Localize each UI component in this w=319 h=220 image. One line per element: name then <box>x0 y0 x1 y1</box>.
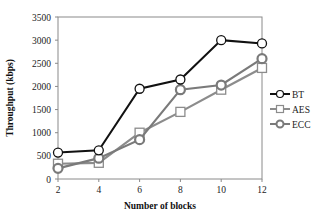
y-tick-label: 1000 <box>32 128 51 138</box>
y-tick-label: 1500 <box>32 105 51 115</box>
y-tick-label: 2500 <box>32 59 51 69</box>
y-tick-label: 2000 <box>32 82 51 92</box>
circle-marker <box>135 135 144 144</box>
y-tick-label: 3500 <box>32 13 51 23</box>
legend-label: AES <box>292 105 310 115</box>
legend-item-bt: BT <box>270 90 304 100</box>
legend: BTAESECC <box>270 90 310 130</box>
circle-marker <box>217 81 226 90</box>
legend-item-ecc: ECC <box>270 120 310 130</box>
y-axis-title: Throughput (kbps) <box>5 59 16 137</box>
series-bt <box>54 36 267 157</box>
circle-marker <box>258 39 267 48</box>
legend-label: ECC <box>292 120 310 130</box>
x-tick-label: 2 <box>56 185 61 195</box>
series-ecc <box>54 54 267 173</box>
circle-marker <box>135 84 144 93</box>
square-marker <box>258 63 267 72</box>
legend-label: BT <box>292 90 304 100</box>
circle-marker <box>94 146 103 155</box>
circle-marker <box>54 164 63 173</box>
x-tick-label: 12 <box>257 185 267 195</box>
y-tick-label: 0 <box>46 175 51 185</box>
square-marker <box>176 107 185 116</box>
circle-marker <box>217 36 226 45</box>
x-tick-label: 8 <box>178 185 183 195</box>
x-tick-label: 10 <box>216 185 226 195</box>
line-chart: 0500100015002000250030003500 24681012 BT… <box>0 0 319 220</box>
circle-marker <box>176 75 185 84</box>
circle-marker <box>176 85 185 94</box>
data-series <box>54 36 267 173</box>
circle-marker <box>54 148 63 157</box>
legend-item-aes: AES <box>270 105 310 115</box>
x-tick-label: 6 <box>137 185 142 195</box>
y-tick-label: 500 <box>37 151 52 161</box>
x-tick-label: 4 <box>96 185 101 195</box>
x-axis-ticks: 24681012 <box>56 179 267 195</box>
x-axis-title: Number of blocks <box>124 201 196 211</box>
y-tick-label: 3000 <box>32 36 51 46</box>
circle-marker <box>258 54 267 63</box>
